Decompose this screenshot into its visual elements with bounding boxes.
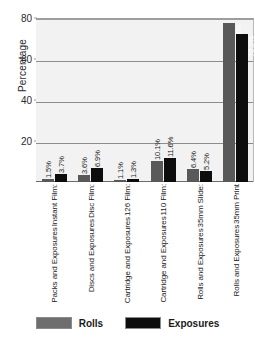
bar-group: 10.1%11.6%	[151, 20, 176, 182]
y-axis-ticks: 20406080	[2, 0, 32, 337]
x-category-line: Discs and Exposures	[86, 219, 95, 292]
x-category-line: Rolls and Exposures	[195, 228, 204, 299]
bar-rolls: 10.1%	[151, 161, 163, 182]
bar-value-label: 6.4%	[189, 151, 198, 168]
bar-exposures: 5.2%	[200, 171, 212, 182]
legend-item[interactable]: Rolls	[36, 317, 103, 329]
legend-item[interactable]: Exposures	[125, 317, 219, 329]
chart-legend: RollsExposures	[0, 317, 255, 329]
bar-value-label: 1.3%	[129, 162, 138, 179]
bar-value-label: 10.1%	[152, 140, 161, 161]
bar-exposures: 1.3%	[127, 179, 139, 182]
bar-rolls: 1.1%	[114, 180, 126, 182]
axis-baseline	[36, 181, 253, 182]
legend-label: Rolls	[79, 318, 103, 329]
bar-rolls: 77.4%	[223, 23, 235, 182]
y-tick-label: 20	[2, 136, 32, 147]
x-category-line: Instant Film:	[50, 184, 59, 226]
y-tick-label: 80	[2, 13, 32, 24]
gridline	[36, 61, 253, 62]
bar-value-label: 1.5%	[43, 161, 52, 178]
bar-group: 3.6%6.9%	[78, 20, 103, 182]
bar-group: 77.4%72.2%	[223, 20, 248, 182]
x-category-label: 110 Film:Cartridge and Exposures	[151, 184, 176, 292]
bar-value-label: 72.2%	[247, 36, 255, 57]
x-category-line: 126 Film:	[122, 184, 131, 216]
bar-rolls: 1.5%	[42, 179, 54, 182]
x-category-label: 126 Film:Cartridge and Exposures	[114, 184, 139, 292]
x-category-line: Disc Film:	[86, 184, 95, 218]
x-axis-category-labels: Instant Film:Packs and ExposuresDisc Fil…	[36, 184, 254, 294]
x-category-line: Rolls and Exposures	[231, 225, 240, 296]
bar-group: 1.1%1.3%	[114, 20, 139, 182]
bar-rolls: 6.4%	[187, 169, 199, 182]
bar-value-label: 6.9%	[93, 150, 102, 167]
gridline	[36, 143, 253, 144]
x-category-label: 35mm PrintRolls and Exposures	[223, 184, 248, 292]
bar-value-label: 1.1%	[116, 162, 125, 179]
x-category-line: Cartridge and Exposures	[122, 217, 131, 303]
y-tick-label: 40	[2, 95, 32, 106]
bar-group: 1.5%3.7%	[42, 20, 67, 182]
bar-value-label: 3.7%	[56, 157, 65, 174]
x-category-label: Disc Film:Discs and Exposures	[78, 184, 103, 292]
x-category-line: 35mm Slide:	[195, 184, 204, 227]
bar-value-label: 11.6%	[165, 137, 174, 157]
bar-exposures: 3.7%	[55, 174, 67, 182]
bar-value-label: 3.6%	[80, 157, 89, 174]
bar-chart: Percentage 20406080 1.5%3.7%3.6%6.9%1.1%…	[0, 0, 255, 337]
bar-group: 6.4%5.2%	[187, 20, 212, 182]
x-category-line: Cartridge and Exposures	[159, 216, 168, 302]
bar-exposures: 72.2%	[236, 34, 248, 182]
x-category-label: 35mm Slide:Rolls and Exposures	[187, 184, 212, 292]
plot-area: 1.5%3.7%3.6%6.9%1.1%1.3%10.1%11.6%6.4%5.…	[36, 18, 254, 182]
bar-exposures: 6.9%	[91, 168, 103, 182]
bar-value-label: 5.2%	[202, 154, 211, 171]
legend-swatch	[36, 317, 72, 329]
x-category-line: Packs and Exposures	[50, 227, 59, 302]
legend-label: Exposures	[168, 318, 219, 329]
x-category-line: 35mm Print	[231, 184, 240, 224]
gridline	[36, 102, 253, 103]
y-tick-label: 60	[2, 54, 32, 65]
bar-rolls: 3.6%	[78, 175, 90, 182]
x-category-label: Instant Film:Packs and Exposures	[42, 184, 67, 292]
legend-swatch	[125, 317, 161, 329]
bar-exposures: 11.6%	[164, 158, 176, 182]
x-category-line: 110 Film:	[159, 184, 168, 215]
